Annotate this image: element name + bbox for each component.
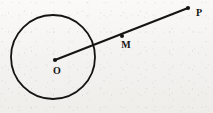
geometry-figure-canvas: O M P <box>0 0 213 113</box>
point-label-p: P <box>196 7 202 18</box>
point-label-o: O <box>53 65 61 76</box>
geometry-diagram-svg: O M P <box>0 0 213 113</box>
segment-op-line <box>55 8 188 60</box>
circle-shape <box>11 15 95 99</box>
point-marker-o <box>53 58 57 62</box>
point-marker-p <box>186 6 190 10</box>
point-label-m: M <box>121 39 131 50</box>
point-marker-m <box>120 34 124 38</box>
